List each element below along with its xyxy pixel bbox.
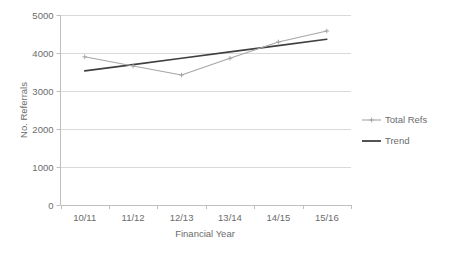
y-axis-tick-label: 5000 bbox=[32, 10, 53, 21]
referrals-line-chart: 010002000300040005000 10/1111/1212/1313/… bbox=[0, 0, 456, 254]
y-axis-tick-label: 0 bbox=[48, 200, 53, 211]
x-axis-tick-label: 10/11 bbox=[73, 212, 96, 223]
y-axis-tick-label: 1000 bbox=[32, 162, 53, 173]
x-axis-title: Financial Year bbox=[175, 228, 235, 239]
y-axis-tick-label: 4000 bbox=[32, 48, 53, 59]
y-axis-title: No. Referrals bbox=[18, 82, 29, 138]
x-axis-tick-label: 13/14 bbox=[218, 212, 242, 223]
y-axis-tick-label: 3000 bbox=[32, 86, 53, 97]
x-axis-tick-label: 12/13 bbox=[170, 212, 194, 223]
x-axis-tick-label: 15/16 bbox=[315, 212, 339, 223]
chart-container: 010002000300040005000 10/1111/1212/1313/… bbox=[0, 0, 456, 254]
legend-label: Trend bbox=[385, 135, 409, 146]
x-axis-tick-label: 14/15 bbox=[266, 212, 290, 223]
y-axis-tick-label: 2000 bbox=[32, 124, 53, 135]
legend-label: Total Refs bbox=[385, 114, 427, 125]
x-axis-tick-label: 11/12 bbox=[122, 212, 145, 223]
